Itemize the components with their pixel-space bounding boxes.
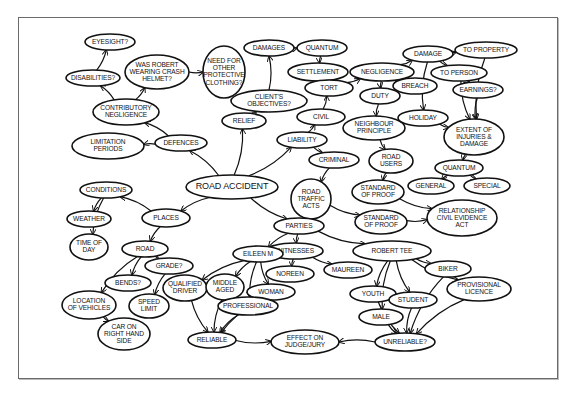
node-maureen: MAUREEN: [324, 262, 372, 278]
node-settlement: SETTLEMENT: [288, 63, 348, 81]
node-label: SPEED: [138, 298, 160, 305]
node-label: NOREEN: [276, 270, 304, 277]
node-label: LIMITATION: [90, 138, 125, 145]
node-label: BIKER: [438, 265, 458, 272]
node-sop-upper: STANDARDOF PROOF: [352, 180, 404, 204]
edge-robert_tee-to-student: [396, 261, 409, 292]
node-label: WEARING CRASH: [129, 68, 184, 75]
edge-defences-to-limitation: [144, 144, 155, 145]
edge-road_traffic_acts-to-sop_lower: [330, 205, 360, 215]
edge-duty-to-neighbour: [376, 104, 378, 116]
node-label: ROAD: [382, 153, 401, 160]
node-special: SPECIAL: [464, 178, 510, 194]
edge-road_accident-to-places: [181, 198, 210, 212]
edge-neighbour-to-road_users: [380, 140, 385, 150]
node-label: RIGHT HAND: [104, 330, 144, 337]
node-label: DAY: [83, 246, 96, 253]
node-car-on: CAR ONRIGHT HANDSIDE: [98, 318, 150, 350]
node-label: ROAD: [136, 245, 155, 252]
edge-parties-to-robert_tee: [318, 231, 365, 244]
edge-criminal-to-road_traffic_acts: [321, 168, 329, 182]
node-label: DAMAGES: [253, 44, 286, 51]
node-label: USERS: [380, 160, 403, 167]
node-middle-aged: MIDDLEAGED: [206, 274, 244, 300]
edge-witnesses-to-noreen: [292, 259, 294, 266]
node-label: QUANTUM: [306, 44, 339, 52]
edge-negligence-to-damage: [401, 60, 413, 64]
node-quantum: QUANTUM: [435, 160, 483, 176]
node-noreen: NOREEN: [266, 266, 314, 282]
node-reliable: RELIABLE: [188, 332, 236, 348]
node-need-for: NEED FOROTHERPROTECTIVECLOTHING?: [203, 46, 245, 98]
edge-sop_lower-to-relationship: [407, 220, 427, 222]
node-label: MIDDLE: [213, 279, 238, 286]
edge-parties-to-witnesses: [296, 234, 297, 243]
node-label: MALE: [372, 313, 390, 320]
edge-civil-to-tort: [323, 96, 327, 109]
node-label: HOLIDAY: [409, 114, 437, 121]
node-tort: TORT: [305, 80, 353, 96]
node-effect: EFFECT ONJUDGE/JURY: [271, 330, 339, 354]
node-disabilities: DISABILITIES?: [66, 70, 120, 86]
node-label: STANDARD: [361, 184, 396, 191]
node-relationship: RELATIONSHIPCIVIL EVIDENCEACT: [427, 200, 497, 236]
node-label: NEIGHBOUR: [354, 120, 393, 127]
node-limitation: LIMITATIONPERIODS: [72, 133, 144, 159]
node-parties: PARTIES: [274, 218, 324, 234]
node-biker: BIKER: [425, 261, 471, 277]
node-label: CLOTHING?: [206, 79, 243, 86]
edge-quantum_top-to-settlement: [319, 56, 320, 63]
node-bends: BENDS?: [105, 275, 151, 291]
node-label: STUDENT: [398, 296, 429, 303]
node-label: PARTIES: [286, 222, 314, 229]
edge-qualified_driver-to-reliable: [192, 300, 208, 332]
edge-contributory-to-disabilities: [101, 86, 115, 100]
edge-liability-to-civil: [308, 125, 314, 133]
node-label: HELMET?: [142, 75, 172, 82]
node-places: PLACES: [142, 209, 190, 227]
node-professional: PROFESSIONAL: [218, 297, 278, 315]
node-to-property: TO PROPERTY: [455, 42, 517, 58]
edge-road_users-to-sop_upper: [383, 173, 386, 181]
edge-liability-to-criminal: [313, 147, 322, 153]
edge-location-to-car_on: [103, 317, 108, 321]
node-label: OF VEHICLES: [68, 304, 111, 311]
node-quantum-top: QUANTUM: [297, 40, 347, 56]
node-label: AGED: [216, 286, 235, 293]
node-label: CONTRIBUTORY: [100, 104, 152, 111]
edge-disabilities-to-eyesight: [97, 50, 107, 70]
edge-extent-to-quantum: [463, 154, 466, 160]
node-label: DUTY: [371, 92, 389, 99]
edge-reliable-to-effect: [236, 341, 271, 344]
edge-negligence-to-duty: [381, 81, 382, 88]
node-label: ACTS: [302, 202, 320, 209]
node-time-of-day: TIME OFDAY: [70, 234, 108, 260]
node-label: DAMAGE: [414, 50, 443, 57]
node-label: OBJECTIVES?: [247, 100, 291, 107]
node-label: NEED FOR: [207, 57, 241, 64]
node-label: SIDE: [117, 337, 133, 344]
edge-witnesses-to-maureen: [313, 257, 332, 264]
node-label: DISABILITIES?: [71, 74, 116, 81]
node-label: ROAD ACCIDENT: [196, 181, 269, 191]
edge-road_accident-to-relief: [234, 129, 242, 175]
node-grade: GRADE?: [145, 258, 193, 274]
node-neighbour: NEIGHBOURPRINCIPLE: [343, 116, 405, 140]
node-label: PERIODS: [94, 145, 124, 152]
edge-tort-to-negligence: [347, 79, 360, 83]
node-road-users: ROADUSERS: [369, 149, 413, 173]
mind-map-diagram: ROAD ACCIDENTEYESIGHT?WAS ROBERTWEARING …: [0, 0, 574, 394]
edge-student-to-unreliable: [407, 308, 412, 333]
nodes-layer: ROAD ACCIDENTEYESIGHT?WAS ROBERTWEARING …: [62, 34, 517, 354]
node-label: TORT: [320, 84, 337, 91]
node-was-robert: WAS ROBERTWEARING CRASHHELMET?: [125, 55, 189, 89]
node-to-person: TO PERSON: [431, 65, 487, 81]
node-label: TO PERSON: [440, 69, 478, 76]
node-contributory: CONTRIBUTORYNEGLIGENCE: [93, 99, 159, 125]
node-qualified-driver: QUALIFIEDDRIVER: [163, 275, 207, 301]
node-robert-tee: ROBERT TEE: [353, 241, 431, 261]
node-label: WEATHER: [73, 215, 105, 222]
node-label: DRIVER: [173, 287, 198, 294]
node-label: CRIMINAL: [319, 156, 350, 163]
node-label: ACT: [456, 221, 469, 228]
